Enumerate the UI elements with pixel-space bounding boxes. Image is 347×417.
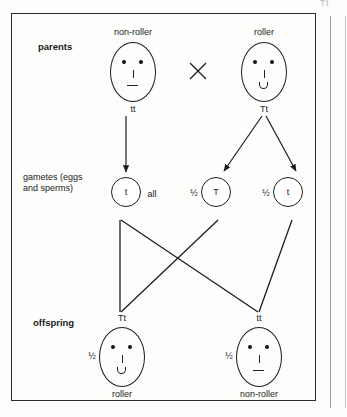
page-header-mark: Tt — [320, 0, 329, 8]
page-gutter-line — [330, 16, 331, 408]
eye-right-icon — [139, 60, 143, 64]
mouth-flat-icon — [127, 85, 138, 86]
eye-left-icon — [253, 60, 257, 64]
mouth-flat-icon — [253, 370, 264, 371]
parent-non-roller-phenotype: non-roller — [114, 27, 152, 38]
nose-icon — [133, 70, 134, 78]
page-gutter-line-outer — [345, 16, 346, 408]
offspring-tt-proportion: ½ — [225, 351, 233, 361]
gamete-proportion-T: ½ — [190, 188, 198, 198]
nose-icon — [259, 355, 260, 363]
offspring-tt-genotype: tt — [256, 313, 261, 324]
offspring-Tt-phenotype: roller — [112, 389, 132, 400]
gamete-proportion-all: all — [147, 189, 156, 199]
nose-icon — [122, 355, 123, 363]
parent-roller-genotype: Tt — [260, 104, 268, 115]
offspring-tt-phenotype: non-roller — [240, 389, 278, 400]
offspring-Tt-face — [99, 327, 145, 387]
eye-left-icon — [122, 60, 126, 64]
offspring-tt-face — [236, 327, 282, 387]
parent-non-roller-face — [110, 42, 156, 102]
nose-icon — [264, 70, 265, 78]
eye-right-icon — [128, 345, 132, 349]
parent-roller-phenotype: roller — [254, 27, 274, 38]
parent-non-roller-genotype: tt — [130, 104, 135, 115]
eye-right-icon — [270, 60, 274, 64]
gamete-proportion-t: ½ — [262, 188, 270, 198]
gamete-circle-t-right: t — [273, 177, 303, 207]
gamete-circle-T: T — [201, 177, 231, 207]
gamete-allele-label: T — [213, 187, 219, 197]
offspring-Tt-proportion: ½ — [88, 351, 96, 361]
eye-left-icon — [111, 345, 115, 349]
gamete-allele-label: t — [287, 187, 290, 197]
eye-right-icon — [265, 345, 269, 349]
row-label-parents: parents — [38, 41, 72, 52]
row-label-gametes: gametes (eggs and sperms) — [23, 172, 83, 194]
gamete-circle-t-left: t — [111, 177, 141, 207]
offspring-Tt-genotype: Tt — [118, 313, 126, 324]
row-label-offspring: offspring — [33, 317, 74, 328]
eye-left-icon — [248, 345, 252, 349]
parent-roller-face — [241, 42, 287, 102]
gamete-allele-label: t — [125, 187, 128, 197]
